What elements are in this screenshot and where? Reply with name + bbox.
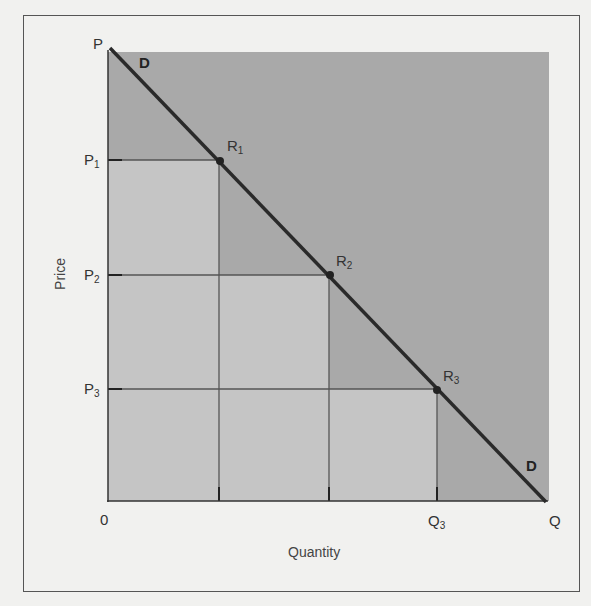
point-r3 — [433, 386, 441, 394]
price-label-p1: P1 — [84, 152, 100, 170]
point-label-r1: R1 — [227, 138, 243, 156]
price-label-p3: P3 — [84, 381, 100, 399]
x-end-label: Q — [549, 513, 561, 528]
x-axis-title: Quantity — [288, 545, 340, 559]
point-r2 — [326, 271, 334, 279]
demand-label-top: D — [139, 55, 150, 70]
origin-label: 0 — [100, 512, 108, 527]
price-label-p2: P2 — [84, 267, 100, 285]
demand-diagram — [0, 0, 591, 606]
y-end-label: P — [93, 36, 103, 51]
point-r1 — [216, 157, 224, 165]
quantity-label-q3: Q3 — [428, 513, 445, 531]
point-label-r3: R3 — [443, 368, 459, 386]
demand-label-bottom: D — [526, 458, 537, 473]
y-axis-title: Price — [53, 258, 67, 290]
point-label-r2: R2 — [336, 253, 352, 271]
